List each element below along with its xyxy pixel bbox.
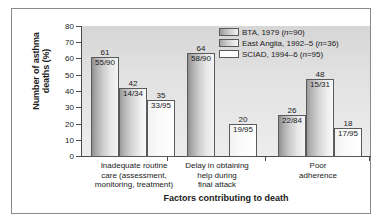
y-tick-label-70: 70 xyxy=(52,38,74,47)
y-tick-60 xyxy=(76,58,81,59)
y-tick-label-40: 40 xyxy=(52,87,74,96)
category-label-2-line3: final attack xyxy=(198,180,236,189)
category-label-1-line2: care (assessment, xyxy=(101,171,166,180)
y-tick-30 xyxy=(76,107,81,108)
x-axis-title: Factors contributing to death xyxy=(82,193,370,203)
figure-frame: Number of asthma deaths (%) 80 70 60 50 … xyxy=(11,8,371,214)
y-tick-label-20: 20 xyxy=(52,120,74,129)
legend-swatch-east-anglia xyxy=(219,39,239,47)
legend-label-bta-main: BTA, 1979 ( xyxy=(242,28,284,37)
legend-item-east-anglia: East Anglia, 1992–5 (n=36) xyxy=(219,38,339,48)
bar-value-group1-series3: 35 xyxy=(147,91,175,100)
legend-label-bta-tail: =90) xyxy=(289,28,305,37)
y-axis-title: Number of asthma deaths (%) xyxy=(31,16,51,126)
bar-group3-series2 xyxy=(306,79,334,157)
bar-group1-series1 xyxy=(91,57,119,157)
y-tick-label-80: 80 xyxy=(52,22,74,31)
legend-label-bta: BTA, 1979 (n=90) xyxy=(242,28,305,37)
bar-fraction-group3-series1: 22/84 xyxy=(278,116,306,125)
y-tick-label-30: 30 xyxy=(52,103,74,112)
bar-value-group1-series2: 42 xyxy=(119,79,147,88)
chart-figure: Number of asthma deaths (%) 80 70 60 50 … xyxy=(0,0,382,224)
bar-value-group3-series3: 18 xyxy=(334,119,362,128)
category-label-1-line3: monitoring, treatment) xyxy=(95,180,173,189)
category-label-2-line2: help during xyxy=(197,171,237,180)
y-tick-label-60: 60 xyxy=(52,54,74,63)
legend-label-east-anglia: East Anglia, 1992–5 (n=36) xyxy=(242,39,339,48)
y-axis-title-line2: deaths (%) xyxy=(41,49,51,94)
legend-label-sciad-main: SCIAD, 1994–6 ( xyxy=(242,50,302,59)
bar-fraction-group1-series3: 33/95 xyxy=(147,101,175,110)
chart-legend: BTA, 1979 (n=90) East Anglia, 1992–5 (n=… xyxy=(219,27,339,60)
category-label-3-line1: Poor xyxy=(310,161,327,170)
bar-fraction-group2-series1: 58/90 xyxy=(187,54,215,63)
bar-fraction-group1-series1: 55/90 xyxy=(91,58,119,67)
bar-group1-series2 xyxy=(119,88,147,157)
y-tick-label-10: 10 xyxy=(52,136,74,145)
y-tick-70 xyxy=(76,42,81,43)
legend-swatch-bta xyxy=(219,28,239,36)
bar-value-group3-series1: 26 xyxy=(278,106,306,115)
category-label-3: Poor adherence xyxy=(266,161,370,180)
category-label-2-line1: Delay in obtaining xyxy=(185,161,249,170)
legend-item-bta: BTA, 1979 (n=90) xyxy=(219,27,339,37)
bar-group2-series1 xyxy=(187,53,215,157)
legend-item-sciad: SCIAD, 1994–6 (n=95) xyxy=(219,49,339,59)
category-label-2: Delay in obtaining help during final att… xyxy=(168,161,266,190)
y-tick-10 xyxy=(76,140,81,141)
legend-swatch-sciad xyxy=(219,50,239,58)
bar-fraction-group1-series2: 14/34 xyxy=(119,89,147,98)
y-tick-label-50: 50 xyxy=(52,71,74,80)
y-tick-0 xyxy=(76,156,81,157)
legend-label-east-anglia-main: East Anglia, 1992–5 ( xyxy=(242,39,318,48)
bar-value-group3-series2: 48 xyxy=(306,70,334,79)
y-axis-title-line1: Number of asthma xyxy=(31,32,41,109)
bar-value-group2-series3: 20 xyxy=(229,115,257,124)
category-label-3-line2: adherence xyxy=(299,171,337,180)
bar-fraction-group3-series3: 17/95 xyxy=(334,129,362,138)
y-tick-20 xyxy=(76,124,81,125)
category-label-1-line1: Inadequate routine xyxy=(101,161,168,170)
y-tick-40 xyxy=(76,91,81,92)
bar-fraction-group2-series3: 19/95 xyxy=(229,125,257,134)
legend-label-sciad-tail: =95) xyxy=(307,50,323,59)
y-tick-50 xyxy=(76,75,81,76)
legend-label-east-anglia-tail: =36) xyxy=(323,39,339,48)
bar-value-group2-series1: 64 xyxy=(187,44,215,53)
y-axis-line xyxy=(81,26,82,157)
bar-value-group1-series1: 61 xyxy=(91,48,119,57)
bar-fraction-group3-series2: 15/31 xyxy=(306,80,334,89)
y-tick-80 xyxy=(76,26,81,27)
legend-label-sciad: SCIAD, 1994–6 (n=95) xyxy=(242,50,323,59)
y-tick-label-0: 0 xyxy=(52,152,74,161)
